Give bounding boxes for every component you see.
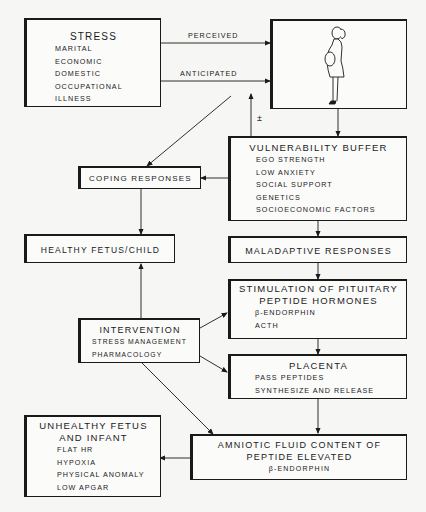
perceived-label: PERCEIVED xyxy=(188,31,239,40)
unhealthy-item: HYPOXIA xyxy=(57,457,160,470)
vulnerability-buffer-box: VULNERABILITY BUFFER EGO STRENGTH LOW AN… xyxy=(228,136,407,221)
unhealthy-item: LOW APGAR xyxy=(57,482,160,495)
pituitary-title-2: PEPTIDE HORMONES xyxy=(231,295,406,307)
pituitary-title-1: STIMULATION OF PITUITARY xyxy=(231,283,406,295)
maladaptive-responses-box: MALADAPTIVE RESPONSES xyxy=(228,236,407,263)
stress-item: ECONOMIC xyxy=(55,56,160,69)
unhealthy-title-2: AND INFANT xyxy=(27,432,160,444)
vulnerability-item: LOW ANXIETY xyxy=(256,167,406,180)
stress-title: STRESS xyxy=(27,31,160,43)
amniotic-item: β-ENDORPHIN xyxy=(193,463,406,475)
unhealthy-item: FLAT HR xyxy=(57,444,160,457)
amniotic-fluid-box: AMNIOTIC FLUID CONTENT OF PEPTIDE ELEVAT… xyxy=(190,434,407,480)
maladaptive-title: MALADAPTIVE RESPONSES xyxy=(231,245,406,257)
vulnerability-item: SOCIAL SUPPORT xyxy=(256,179,406,192)
intervention-box: INTERVENTION STRESS MANAGEMENT PHARMACOL… xyxy=(78,318,200,363)
vulnerability-item: EGO STRENGTH xyxy=(256,154,406,167)
pregnant-woman-box xyxy=(270,19,407,109)
vulnerability-item: SOCIOECONOMIC FACTORS xyxy=(256,204,406,217)
placenta-title: PLACENTA xyxy=(231,360,406,372)
pituitary-item: β-ENDORPHIN xyxy=(255,307,406,320)
placenta-box: PLACENTA PASS PEPTIDES SYNTHESIZE AND RE… xyxy=(228,354,407,399)
placenta-item: SYNTHESIZE AND RELEASE xyxy=(255,385,406,398)
anticipated-label: ANTICIPATED xyxy=(180,69,237,78)
stress-item: OCCUPATIONAL xyxy=(55,81,160,94)
pregnant-woman-icon xyxy=(317,23,357,109)
unhealthy-title-1: UNHEALTHY FETUS xyxy=(27,420,160,432)
intervention-item: STRESS MANAGEMENT xyxy=(92,336,199,349)
coping-responses-box: COPING RESPONSES xyxy=(78,166,201,189)
healthy-title: HEALTHY FETUS/CHILD xyxy=(27,244,174,256)
stress-item: ILLNESS xyxy=(55,93,160,106)
plus-minus-label: ± xyxy=(257,113,263,123)
stress-item: DOMESTIC xyxy=(55,68,160,81)
amniotic-title-2: PEPTIDE ELEVATED xyxy=(193,451,406,463)
vulnerability-item: GENETICS xyxy=(256,192,406,205)
vulnerability-title: VULNERABILITY BUFFER xyxy=(231,142,406,154)
stress-item: MARITAL xyxy=(55,43,160,56)
stress-box: STRESS MARITAL ECONOMIC DOMESTIC OCCUPAT… xyxy=(24,18,161,107)
intervention-title: INTERVENTION xyxy=(81,324,199,336)
healthy-fetus-box: HEALTHY FETUS/CHILD xyxy=(24,234,175,263)
pituitary-item: ACTH xyxy=(255,320,406,333)
placenta-item: PASS PEPTIDES xyxy=(255,372,406,385)
amniotic-title-1: AMNIOTIC FLUID CONTENT OF xyxy=(193,439,406,451)
unhealthy-item: PHYSICAL ANOMALY xyxy=(57,469,160,482)
intervention-item: PHARMACOLOGY xyxy=(92,349,199,362)
unhealthy-fetus-box: UNHEALTHY FETUS AND INFANT FLAT HR HYPOX… xyxy=(24,415,161,497)
pituitary-box: STIMULATION OF PITUITARY PEPTIDE HORMONE… xyxy=(228,279,407,339)
coping-title: COPING RESPONSES xyxy=(81,173,200,185)
